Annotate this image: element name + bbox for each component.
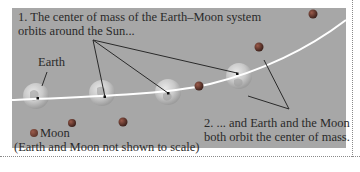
caption-2-line1: 2. ... and Earth and the Moon	[204, 116, 350, 130]
moon-legend: Moon	[30, 126, 70, 140]
moon-icon	[30, 129, 38, 137]
caption-1-line1: 1. The center of mass of the Earth–Moon …	[18, 10, 261, 24]
caption-1-line2: orbits around the Sun...	[18, 24, 261, 38]
earth-label-pointer	[42, 72, 47, 86]
earth-globe	[23, 83, 49, 109]
moon	[119, 118, 128, 127]
moon	[309, 10, 318, 19]
caption2-pointer-lines	[248, 60, 289, 109]
caption-2: 2. ... and Earth and the Moon both orbit…	[204, 116, 350, 144]
moon	[195, 82, 204, 91]
center-of-mass-dots	[37, 73, 239, 100]
caption-1: 1. The center of mass of the Earth–Moon …	[18, 10, 261, 38]
moon-legend-label: Moon	[40, 126, 70, 140]
moon	[255, 43, 264, 52]
earth-label: Earth	[38, 55, 65, 69]
scale-note: (Earth and Moon not shown to scale)	[14, 140, 199, 154]
caption-2-line2: both orbit the center of mass.	[204, 130, 350, 144]
